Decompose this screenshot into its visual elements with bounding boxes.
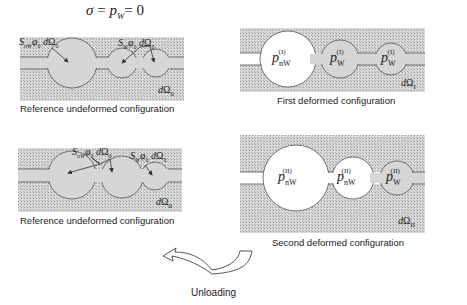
domain-label-d-omega-0-top: dΩ0	[158, 84, 174, 98]
caption-reference-top: Reference undeformed configuration	[20, 103, 174, 114]
equals-sign: =	[93, 2, 109, 18]
boundary-condition-equation: σ = pW= 0	[86, 2, 144, 21]
pore-pressure-w-first-2: pW(I)	[381, 50, 395, 68]
caption-second-deformed: Second deformed configuration	[272, 237, 404, 248]
domain-label-d-omega-ii: dΩII	[398, 215, 415, 229]
annotation-sw-top: SWφ0 dΩ0	[118, 37, 154, 50]
diagram-canvas	[0, 0, 467, 305]
equals-zero: = 0	[124, 2, 144, 18]
caption-first-deformed: First deformed configuration	[277, 95, 395, 106]
annotation-snw-top: SnWφ0 dΩ0	[19, 36, 58, 49]
domain-label-d-omega-i: dΩI	[401, 77, 416, 91]
pore-pressure-nw-first: pnW(I)	[272, 50, 286, 68]
unloading-label: Unloading	[191, 287, 236, 298]
pore-pressure-w-first-1: pW(I)	[330, 50, 344, 68]
annotation-sw-bottom: SWφ0 dΩ0	[130, 150, 166, 163]
pore-pressure-w-second: pW(II)	[386, 169, 400, 187]
pressure-symbol: p	[109, 2, 117, 18]
unloading-arrow-icon	[163, 248, 252, 274]
domain-label-d-omega-0-bottom: dΩ0	[156, 196, 172, 210]
caption-reference-bottom: Reference undeformed configuration	[20, 215, 174, 226]
pore-pressure-nw-second-1: pnW(II)	[278, 169, 292, 187]
annotation-snw-bottom: SnWφ0 dΩ0	[72, 146, 111, 159]
pore-pressure-nw-second-2: pnW(II)	[337, 169, 351, 187]
